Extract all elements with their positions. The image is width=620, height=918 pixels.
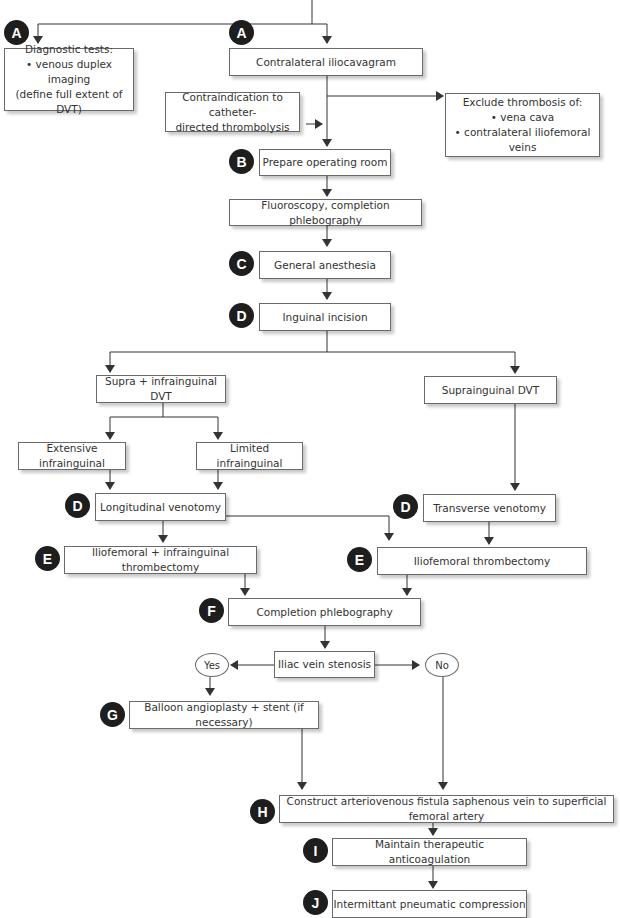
iliac-vein-stenosis-label: Iliac vein stenosis <box>278 657 371 672</box>
diagnostic-tests-line-2: • venous duplex imaging <box>5 57 133 87</box>
longitudinal-venotomy-box: Longitudinal venotomy <box>95 493 226 521</box>
badge-e: E <box>35 546 60 571</box>
iliofemoral-infrainguinal-thrombectomy-label: Iliofemoral + infrainguinal thrombectomy <box>65 545 256 575</box>
inguinal-incision-label: Inguinal incision <box>282 310 367 325</box>
badge-i: I <box>303 838 328 863</box>
exclude-thrombosis-line-3: • contralateral iliofemoral veins <box>446 125 599 155</box>
suprainguinal-dvt-box: Suprainguinal DVT <box>424 376 557 404</box>
suprainguinal-dvt-label: Suprainguinal DVT <box>442 383 539 398</box>
yes-decision: Yes <box>195 653 229 677</box>
anticoagulation-box: Maintain therapeutic anticoagulation <box>332 838 527 866</box>
fluoroscopy-label: Fluoroscopy, completion phlebography <box>230 198 421 228</box>
badge-c: C <box>229 251 254 276</box>
fluoroscopy-box: Fluoroscopy, completion phlebography <box>229 199 422 226</box>
inguinal-incision-box: Inguinal incision <box>259 303 391 331</box>
exclude-thrombosis-line-1: Exclude thrombosis of: <box>463 95 583 110</box>
badge-d: D <box>229 303 254 328</box>
contraindication-box: Contraindication to catheter- directed t… <box>165 92 300 132</box>
contraindication-line-2: directed thrombolysis <box>175 120 289 135</box>
transverse-venotomy-box: Transverse venotomy <box>423 494 556 522</box>
iliac-vein-stenosis-box: Iliac vein stenosis <box>274 651 375 678</box>
extensive-infrainguinal-box: Extensive infrainguinal <box>18 442 126 470</box>
limited-infrainguinal-label: Limited infrainguinal <box>197 441 302 471</box>
balloon-angioplasty-label: Balloon angioplasty + stent (if necessar… <box>130 700 318 730</box>
iliofemoral-thrombectomy-label: Iliofemoral thrombectomy <box>414 554 551 569</box>
supra-infrainguinal-dvt-label: Supra + infrainguinal DVT <box>97 374 225 404</box>
badge-g: G <box>100 702 125 727</box>
badge-e: E <box>347 547 372 572</box>
contralateral-iliocavagram-label: Contralateral iliocavagram <box>256 55 396 70</box>
pneumatic-compression-label: Intermittant pneumatic compression <box>333 897 525 912</box>
longitudinal-venotomy-label: Longitudinal venotomy <box>100 500 221 515</box>
iliofemoral-infrainguinal-thrombectomy-box: Iliofemoral + infrainguinal thrombectomy <box>64 546 257 574</box>
transverse-venotomy-label: Transverse venotomy <box>433 501 546 516</box>
completion-phlebography-label: Completion phlebography <box>256 605 392 620</box>
badge-f: F <box>199 598 224 623</box>
contraindication-line-1: Contraindication to catheter- <box>166 90 299 120</box>
iliofemoral-thrombectomy-box: Iliofemoral thrombectomy <box>377 547 587 575</box>
diagnostic-tests-box: Diagnostic tests: • venous duplex imagin… <box>4 48 134 111</box>
prepare-operating-room-box: Prepare operating room <box>259 149 391 176</box>
av-fistula-box: Construct arteriovenous fistula saphenou… <box>279 795 614 823</box>
general-anesthesia-label: General anesthesia <box>274 258 376 273</box>
extensive-infrainguinal-label: Extensive infrainguinal <box>19 441 125 471</box>
supra-infrainguinal-dvt-box: Supra + infrainguinal DVT <box>96 375 226 403</box>
badge-a: A <box>229 20 254 45</box>
completion-phlebography-box: Completion phlebography <box>228 598 421 626</box>
anticoagulation-label: Maintain therapeutic anticoagulation <box>333 837 526 867</box>
general-anesthesia-box: General anesthesia <box>259 251 391 279</box>
yes-label: Yes <box>204 660 220 671</box>
balloon-angioplasty-box: Balloon angioplasty + stent (if necessar… <box>129 701 319 729</box>
diagnostic-tests-line-1: Diagnostic tests: <box>25 42 113 57</box>
badge-j: J <box>303 890 328 915</box>
diagnostic-tests-line-3: (define full extent of DVT) <box>5 87 133 117</box>
no-decision: No <box>425 653 459 677</box>
badge-d: D <box>65 493 90 518</box>
contralateral-iliocavagram-box: Contralateral iliocavagram <box>229 48 423 76</box>
badge-d: D <box>393 494 418 519</box>
badge-b: B <box>229 149 254 174</box>
av-fistula-label: Construct arteriovenous fistula saphenou… <box>280 794 613 824</box>
no-label: No <box>435 660 449 671</box>
prepare-operating-room-label: Prepare operating room <box>263 155 388 170</box>
exclude-thrombosis-line-2: • vena cava <box>491 110 555 125</box>
pneumatic-compression-box: Intermittant pneumatic compression <box>332 890 527 918</box>
badge-h: H <box>250 799 275 824</box>
limited-infrainguinal-box: Limited infrainguinal <box>196 442 303 470</box>
exclude-thrombosis-box: Exclude thrombosis of: • vena cava • con… <box>445 93 600 157</box>
